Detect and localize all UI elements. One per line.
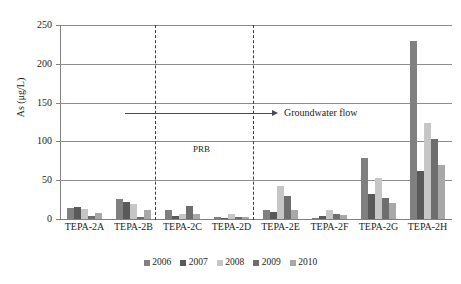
bar (123, 202, 130, 219)
bar (67, 208, 74, 219)
bar (326, 210, 333, 219)
y-tick-label: 0 (18, 213, 52, 224)
legend-label: 2008 (225, 258, 244, 268)
prb-label: PRB (193, 144, 210, 154)
x-tick-label: TEPA-2F (305, 221, 354, 232)
bar (214, 217, 221, 219)
bar (172, 216, 179, 219)
legend-swatch (217, 260, 223, 266)
bar (228, 214, 235, 219)
bar (438, 165, 445, 219)
bar-group-spacer (347, 218, 351, 219)
y-tick-label: 100 (18, 136, 52, 147)
bar (431, 139, 438, 219)
legend-item: 2008 (217, 258, 245, 268)
bar-group-spacer (445, 218, 449, 219)
legend-item: 2006 (144, 258, 172, 268)
bar (319, 216, 326, 219)
bar (382, 198, 389, 219)
bar (221, 218, 228, 219)
bar (242, 217, 249, 219)
bar (417, 171, 424, 219)
legend-swatch (290, 260, 296, 266)
legend-item: 2010 (290, 258, 318, 268)
legend-swatch (253, 260, 259, 266)
bar (375, 178, 382, 219)
legend-swatch (180, 260, 186, 266)
bar (270, 212, 277, 219)
bar-group-spacer (200, 218, 204, 219)
bar (193, 214, 200, 219)
groundwater-flow-arrow-icon (272, 110, 278, 116)
x-axis-labels: TEPA-2ATEPA-2BTEPA-2CTEPA-2DTEPA-2ETEPA-… (60, 221, 452, 232)
bar (179, 214, 186, 219)
bar (116, 199, 123, 219)
prb-boundary-left (155, 25, 156, 220)
bar (137, 217, 144, 219)
x-axis-line (60, 219, 452, 220)
bar-group (60, 25, 109, 219)
legend-swatch (144, 260, 150, 266)
x-tick-label: TEPA-2H (403, 221, 452, 232)
y-tick-label: 200 (18, 58, 52, 69)
bar-group (256, 25, 305, 219)
bar-group (158, 25, 207, 219)
legend-item: 2009 (253, 258, 281, 268)
bar (389, 203, 396, 219)
x-tick-label: TEPA-2E (256, 221, 305, 232)
y-tick-label: 250 (18, 19, 52, 30)
bar (88, 216, 95, 219)
y-tick-label: 150 (18, 97, 52, 108)
bar (340, 215, 347, 219)
legend-label: 2006 (152, 258, 171, 268)
bar (312, 218, 319, 219)
prb-boundary-right (253, 25, 254, 220)
bar (186, 206, 193, 219)
bar-group-spacer (396, 218, 400, 219)
bar (81, 209, 88, 219)
bar-group (207, 25, 256, 219)
y-tick-mark (56, 219, 60, 220)
x-tick-label: TEPA-2B (109, 221, 158, 232)
bar (368, 194, 375, 219)
chart-figure: As (μg/L) 050100150200250 TEPA-2ATEPA-2B… (0, 0, 461, 284)
bar (277, 186, 284, 219)
chart-legend: 20062007200820092010 (0, 258, 461, 268)
bar-group (354, 25, 403, 219)
legend-label: 2007 (189, 258, 208, 268)
bar (333, 214, 340, 219)
bar-groups (60, 25, 452, 219)
groundwater-flow-arrow-line (125, 113, 272, 114)
y-tick-label: 50 (18, 175, 52, 186)
x-tick-label: TEPA-2G (354, 221, 403, 232)
bar (410, 41, 417, 219)
bar (361, 158, 368, 219)
bar-group (403, 25, 452, 219)
bar (95, 213, 102, 219)
bar (74, 207, 81, 219)
x-tick-label: TEPA-2A (60, 221, 109, 232)
legend-item: 2007 (180, 258, 208, 268)
bar (284, 196, 291, 219)
bar (424, 123, 431, 219)
bar-group (109, 25, 158, 219)
groundwater-flow-label: Groundwater flow (284, 107, 358, 118)
bar-group (305, 25, 354, 219)
plot-area: 050100150200250 (60, 25, 452, 219)
bar-group-spacer (102, 218, 106, 219)
x-tick-label: TEPA-2D (207, 221, 256, 232)
legend-label: 2009 (262, 258, 281, 268)
x-tick-label: TEPA-2C (158, 221, 207, 232)
bar (263, 210, 270, 219)
bar (165, 210, 172, 219)
bar (130, 204, 137, 219)
bar-group-spacer (298, 218, 302, 219)
bar (235, 217, 242, 219)
bar (291, 210, 298, 219)
bar (144, 210, 151, 219)
legend-label: 2010 (298, 258, 317, 268)
